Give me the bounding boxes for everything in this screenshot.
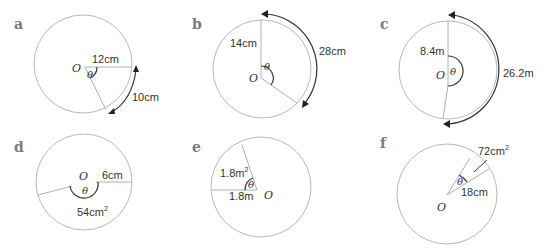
panel-label-f: f [380,135,387,151]
arrowhead-icon [261,10,268,18]
origin-label-f: O [437,201,446,214]
origin-label-c: O [436,69,445,82]
theta-label-c: θ [450,66,456,77]
arc-label-b: 28cm [319,45,346,57]
panel-label-e: e [192,139,201,155]
arc-arrow-b [266,14,317,103]
arc-arrow-c [449,15,499,124]
circle-b [213,20,311,118]
area-label-f: 72cm2 [478,144,509,157]
origin-label-b: O [249,72,258,85]
panel-label-c: c [380,16,389,32]
panel-f: f O θ 18cm 72cm2 [380,135,509,244]
origin-label-d: O [79,170,88,183]
theta-label-b: θ [264,61,270,72]
panel-d: d O θ 6cm 54cm2 [14,134,132,230]
area-label-d: 54cm2 [77,205,108,218]
panel-b: b O θ 14cm 28cm [192,10,346,118]
origin-label-a: O [72,62,81,75]
arrowhead-icon [448,11,455,19]
panel-label-a: a [14,16,23,32]
radius-line-b2 [261,78,297,103]
radius-label-d: 6cm [102,169,123,181]
theta-label-e: θ [248,179,254,190]
panel-label-d: d [14,139,24,155]
arrowhead-icon [302,100,309,108]
arrowhead-icon [443,120,450,128]
arrowhead-icon [108,108,115,114]
radius-label-a: 12cm [92,53,119,65]
panel-e: e O θ 1.8m 1.8m2 [192,137,311,237]
sector-diagrams: a O θ 12cm 10cm b O θ 14cm 28cm c [0,0,546,251]
arrowhead-icon [133,65,139,72]
area-leader-line [474,160,487,172]
radius-label-f: 18cm [461,186,488,198]
panel-c: c O θ 8.4m 26.2m [380,11,534,128]
panel-a: a O θ 12cm 10cm [14,15,159,114]
circle-e [211,137,311,237]
radius-line-c2 [443,85,448,119]
area-label-e: 1.8m2 [220,166,248,179]
panel-label-b: b [192,16,202,32]
radius-label-e: 1.8m [229,190,253,202]
radius-label-b: 14cm [230,37,257,49]
theta-label-a: θ [87,69,93,80]
arc-label-a: 10cm [132,91,159,103]
radius-label-c: 8.4m [420,45,444,57]
radius-line-d2 [38,186,72,195]
theta-label-d: θ [82,185,88,196]
arc-label-c: 26.2m [503,67,534,79]
origin-label-e: O [264,189,273,202]
